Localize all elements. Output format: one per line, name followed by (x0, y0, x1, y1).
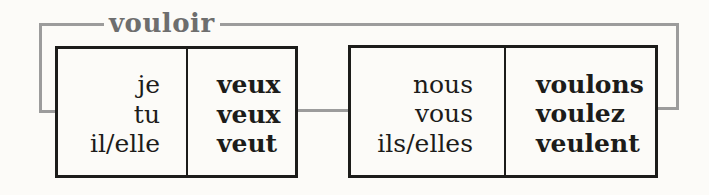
verb-form-cell: veux (217, 100, 295, 130)
verb-form-cell: veux (217, 70, 295, 100)
verb-form-cell: voulez (536, 99, 655, 129)
plural-form-column: voulons voulez veulent (506, 48, 655, 175)
pronoun-cell: nous (351, 70, 473, 100)
pronoun-cell: il/elle (58, 129, 160, 159)
frame-right-line (676, 23, 679, 110)
conjugation-diagram: vouloir je tu il/elle veux veux veut nou… (0, 0, 709, 195)
frame-left-line (39, 23, 42, 113)
verb-label: vouloir (104, 9, 220, 38)
plural-conjugation-table: nous vous ils/elles voulons voulez veule… (348, 45, 658, 178)
pronoun-cell: je (58, 70, 160, 100)
singular-form-column: veux veux veut (188, 49, 295, 175)
singular-pronoun-column: je tu il/elle (58, 49, 188, 175)
verb-form-cell: voulons (536, 70, 655, 100)
boxes-connector-line (297, 109, 349, 112)
pronoun-cell: vous (351, 99, 473, 129)
pronoun-cell: ils/elles (351, 129, 473, 159)
verb-form-cell: veulent (536, 129, 655, 159)
verb-form-cell: veut (217, 129, 295, 159)
pronoun-cell: tu (58, 100, 160, 130)
frame-right-connector-line (657, 107, 679, 110)
plural-pronoun-column: nous vous ils/elles (351, 48, 506, 175)
singular-conjugation-table: je tu il/elle veux veux veut (55, 46, 298, 178)
